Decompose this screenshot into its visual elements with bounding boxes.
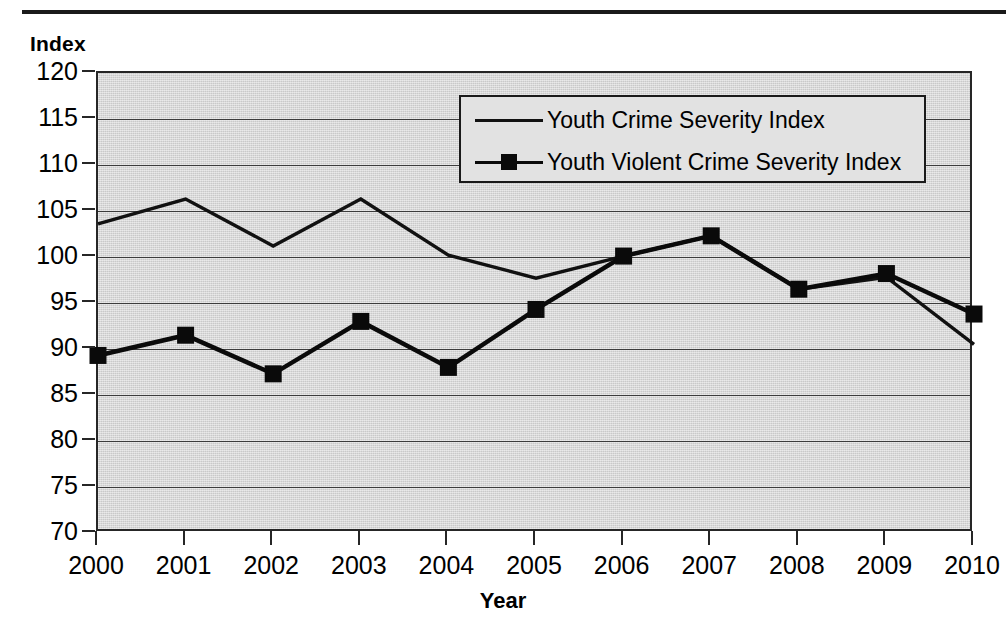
x-tick-label: 2010	[927, 553, 1006, 578]
y-tick-label: 85	[8, 381, 78, 406]
data-point-marker	[615, 248, 632, 265]
x-tick-label: 2006	[577, 553, 667, 578]
legend-label: Youth Violent Crime Severity Index	[547, 151, 901, 174]
x-axis-caption: Year	[0, 590, 1006, 612]
y-tick-mark	[82, 162, 95, 164]
x-tick-label: 2003	[314, 553, 404, 578]
legend-item: Youth Violent Crime Severity Index	[461, 140, 924, 184]
legend-line-marker-icon	[471, 148, 547, 176]
x-tick-mark	[445, 531, 447, 545]
y-tick-mark	[82, 484, 95, 486]
data-point-marker	[90, 347, 107, 364]
data-point-marker	[177, 327, 194, 344]
legend-swatch-line	[475, 119, 543, 122]
x-tick-label: 2005	[489, 553, 579, 578]
y-tick-label: 80	[8, 427, 78, 452]
y-tick-mark	[82, 116, 95, 118]
x-tick-label: 2007	[664, 553, 754, 578]
header-rule	[22, 10, 1006, 14]
y-tick-label: 90	[8, 335, 78, 360]
y-tick-mark	[82, 70, 95, 72]
y-tick-mark	[82, 300, 95, 302]
y-axis-caption: Index	[30, 33, 86, 54]
x-tick-mark	[708, 531, 710, 545]
y-tick-mark	[82, 346, 95, 348]
y-tick-label: 115	[8, 105, 78, 130]
data-point-marker	[440, 359, 457, 376]
data-point-marker	[878, 265, 895, 282]
data-point-marker	[352, 313, 369, 330]
legend-item: Youth Crime Severity Index	[461, 98, 924, 142]
x-tick-label: 2001	[139, 553, 229, 578]
data-point-marker	[790, 281, 807, 298]
x-tick-label: 2002	[226, 553, 316, 578]
x-tick-mark	[358, 531, 360, 545]
legend-line-icon	[471, 106, 547, 134]
y-tick-label: 75	[8, 473, 78, 498]
series-line	[98, 199, 974, 344]
x-tick-mark	[883, 531, 885, 545]
y-tick-label: 95	[8, 289, 78, 314]
y-tick-mark	[82, 208, 95, 210]
y-tick-label: 100	[8, 243, 78, 268]
y-tick-mark	[82, 530, 95, 532]
data-point-marker	[966, 306, 983, 323]
x-tick-mark	[95, 531, 97, 545]
y-tick-label: 105	[8, 197, 78, 222]
y-tick-label: 110	[8, 151, 78, 176]
x-tick-label: 2008	[752, 553, 842, 578]
y-tick-mark	[82, 254, 95, 256]
youth-crime-severity-index-chart: Index 707580859095100105110115120 200020…	[0, 0, 1006, 639]
y-tick-mark	[82, 438, 95, 440]
x-tick-mark	[796, 531, 798, 545]
legend-swatch-marker	[501, 154, 517, 170]
data-point-marker	[528, 301, 545, 318]
legend: Youth Crime Severity IndexYouth Violent …	[459, 95, 926, 183]
x-tick-mark	[183, 531, 185, 545]
data-point-marker	[265, 365, 282, 382]
y-tick-label: 70	[8, 519, 78, 544]
y-tick-mark	[82, 392, 95, 394]
x-tick-mark	[533, 531, 535, 545]
x-tick-label: 2009	[839, 553, 929, 578]
x-tick-label: 2004	[401, 553, 491, 578]
x-tick-label: 2000	[51, 553, 141, 578]
y-tick-label: 120	[8, 59, 78, 84]
legend-label: Youth Crime Severity Index	[547, 109, 825, 132]
x-tick-mark	[621, 531, 623, 545]
data-point-marker	[703, 227, 720, 244]
x-tick-mark	[971, 531, 973, 545]
x-tick-mark	[270, 531, 272, 545]
